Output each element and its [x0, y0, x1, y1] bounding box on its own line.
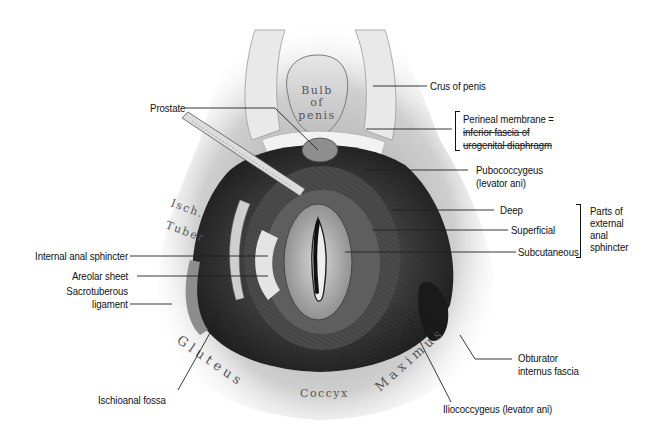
label-deep: Deep — [500, 204, 523, 217]
prostate — [302, 138, 338, 162]
svg-text:Coccyx: Coccyx — [300, 387, 349, 400]
label-prostate: Prostate — [150, 102, 185, 115]
label-crus-of-penis: Crus of penis — [430, 80, 486, 93]
label-areolar-sheet: Areolar sheet — [72, 270, 128, 283]
label-subcutaneous: Subcutaneous — [518, 246, 579, 259]
perineal-membrane-bracket — [455, 111, 460, 151]
anal-sphincter-complex — [244, 166, 400, 350]
label-superficial: Superficial — [511, 224, 555, 237]
svg-text:of: of — [310, 96, 324, 109]
label-internal-anal-sphincter: Internal anal sphincter — [35, 250, 128, 263]
label-iliococcygeus: Iliococcygeus (levator ani) — [443, 403, 552, 416]
label-ischioanal-fossa: Ischioanal fossa — [98, 394, 166, 407]
svg-text:penis: penis — [298, 109, 335, 122]
